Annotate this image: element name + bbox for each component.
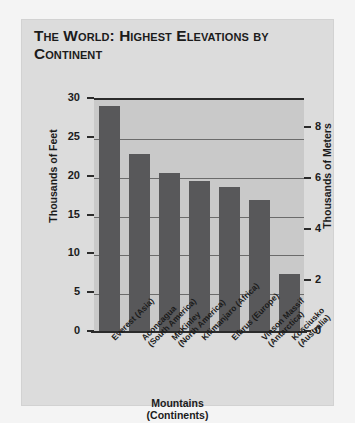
screenshot-page: The World: Highest Elevations by Contine… (0, 0, 355, 423)
y-axis-tick-label-left: 15 (56, 208, 80, 220)
y-axis-title-right: Thousands of Meters (321, 111, 333, 241)
y-axis-tick-right (304, 126, 311, 128)
y-axis-tick-left (87, 252, 94, 254)
y-axis-tick-left (87, 97, 94, 99)
y-axis-tick-label-left: 20 (56, 169, 80, 181)
y-axis-title-left: Thousands of Feet (47, 111, 59, 241)
y-axis-tick-label-left: 5 (56, 285, 80, 297)
bar (99, 106, 120, 331)
x-axis-title-line1: Mountains (22, 397, 333, 409)
x-axis-title: Mountains (Continents) (22, 397, 333, 421)
y-axis-tick-left (87, 136, 94, 138)
y-axis-tick-left (87, 214, 94, 216)
y-axis-tick-label-left: 10 (56, 246, 80, 258)
chart-card: The World: Highest Elevations by Contine… (22, 20, 333, 405)
x-axis-title-line2: (Continents) (22, 409, 333, 421)
y-axis-tick-label-left: 0 (56, 324, 80, 336)
y-axis-tick-right (304, 279, 311, 281)
y-axis-tick-left (87, 175, 94, 177)
y-axis-tick-left (87, 291, 94, 293)
y-axis-tick-left (87, 330, 94, 332)
y-axis-tick-label-left: 30 (56, 91, 80, 103)
page-title: The World: Highest Elevations by Contine… (34, 27, 326, 62)
y-axis-tick-label-right: 2 (315, 273, 335, 285)
y-axis-tick-label-left: 25 (56, 130, 80, 142)
y-axis-tick-right (304, 177, 311, 179)
y-axis-tick-right (304, 228, 311, 230)
